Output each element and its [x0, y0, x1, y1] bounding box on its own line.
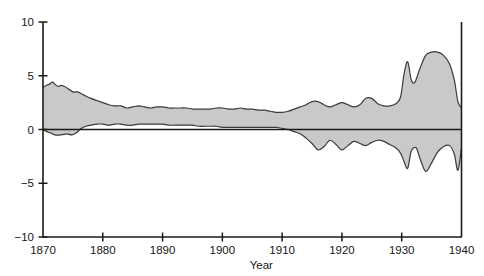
chart-band-group [43, 52, 462, 172]
x-axis-tick-label: 1920 [329, 244, 355, 256]
y-axis-tick-label: −5 [21, 177, 34, 189]
x-axis-tick-label: 1910 [269, 244, 295, 256]
y-axis-tick-label: −10 [14, 231, 34, 243]
y-axis-tick-label: 10 [21, 16, 34, 28]
y-axis-tick-label: 0 [28, 124, 34, 136]
chart-container: −10−50510 187018801890190019101920193019… [0, 0, 484, 276]
y-axis: −10−50510 [14, 16, 47, 243]
x-axis-tick-label: 1870 [30, 244, 56, 256]
area-chart: −10−50510 187018801890190019101920193019… [0, 0, 484, 276]
x-axis-tick-label: 1940 [449, 244, 475, 256]
x-axis-tick-label: 1890 [150, 244, 176, 256]
x-axis-tick-label: 1930 [389, 244, 415, 256]
x-axis-tick-label: 1880 [90, 244, 116, 256]
x-axis-title: Year [250, 259, 273, 271]
x-axis-tick-label: 1900 [210, 244, 236, 256]
confidence-band [43, 52, 462, 172]
y-axis-tick-label: 5 [28, 70, 34, 82]
